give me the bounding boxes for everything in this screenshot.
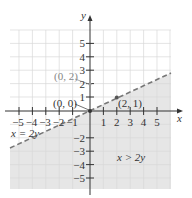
x-tick-label: 5 xyxy=(154,116,160,128)
leader-origin xyxy=(75,104,89,110)
boundary-equation-label: x = 2y xyxy=(10,127,39,139)
point-0-2-label: (0, 2) xyxy=(54,70,78,83)
y-tick-label: 4 xyxy=(80,51,86,63)
y-tick-label: 5 xyxy=(80,37,86,49)
inequality-graph: y x −5 −4 −3 −2 −1 1 2 3 4 5 5 4 3 2 1 −… xyxy=(0,0,192,198)
y-tick-label: −4 xyxy=(73,159,85,171)
x-axis-label: x xyxy=(176,112,182,124)
y-tick-label: −5 xyxy=(73,172,85,184)
x-tick-label: −2 xyxy=(53,116,65,128)
x-tick-label: 4 xyxy=(141,116,147,128)
point-origin-label: (0, 0) xyxy=(53,97,77,110)
x-tick-label: −1 xyxy=(66,116,78,128)
y-tick-label: 2 xyxy=(80,78,86,90)
region-inequality-label: x > 2y xyxy=(116,151,145,163)
point-2-1-label: (2, 1) xyxy=(118,97,142,110)
x-tick-label: 3 xyxy=(127,116,133,128)
y-tick-label: 1 xyxy=(80,91,86,103)
y-axis-arrow-icon xyxy=(88,15,93,21)
y-axis-label: y xyxy=(80,9,86,21)
x-tick-label: 2 xyxy=(114,116,120,128)
y-tick-label: −2 xyxy=(73,132,85,144)
x-tick-label: 1 xyxy=(101,116,107,128)
y-tick-label: −3 xyxy=(73,145,85,157)
x-tick-label: −3 xyxy=(39,116,51,128)
y-tick-label: 3 xyxy=(80,64,86,76)
